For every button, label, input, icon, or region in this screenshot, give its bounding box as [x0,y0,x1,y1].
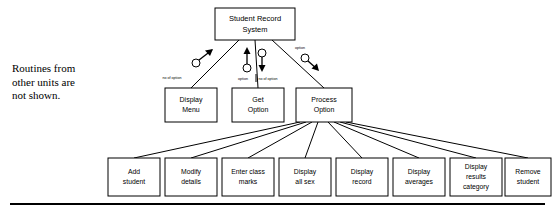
node-label-display-results-category-line1: Display [465,163,488,171]
node-label-display-results-category-line3: category [463,183,490,191]
flow-circle-option-right [301,54,309,62]
connector-process-to-display-all-sex [305,122,318,158]
node-label-display-averages-line1: Display [408,168,431,176]
node-label-display-results-category-line2: results [466,173,487,180]
node-label-add-student-line2: student [123,178,145,185]
connector-process-to-display-results-category [340,122,476,158]
node-enter-class-marks[interactable]: Enter class marks [222,158,274,196]
node-label-remove-student-line1: Remove [515,168,541,175]
node-label-get-option-line1: Get [252,96,263,103]
flow-arrowhead-no-of-option-center [259,65,266,72]
node-display-menu[interactable]: Display Menu [165,88,217,122]
node-student-record-system[interactable]: Student Record System [215,8,295,40]
node-label-process-option-line1: Process [311,96,337,103]
node-label-display-all-sex-line1: Display [294,168,317,176]
node-modify-details[interactable]: Modify details [165,158,217,196]
flow-label-no-of-option-center: no of option [259,77,278,81]
connector-process-to-display-record [328,122,362,158]
node-label-display-menu-line1: Display [180,96,203,104]
structure-chart-diagram: Student Record System [0,0,552,220]
node-label-display-record-line1: Display [351,168,374,176]
flow-circle-no-of-option-left [192,59,200,67]
node-label-process-option-line2: Option [314,106,335,114]
node-label-remove-student-line2: student [517,178,539,185]
flow-arrowhead-option-center [244,47,251,54]
node-label-add-student-line1: Add [128,168,140,175]
node-label-display-averages-line2: averages [405,178,434,186]
node-label-display-all-sex-line2: all sex [295,178,315,185]
node-label-student-record-system-line1: Student Record [229,14,281,23]
node-label-modify-details-line1: Modify [181,168,202,176]
structure-chart-page: Routines from other units are not shown.… [0,0,552,220]
flow-label-group: no of option option no of option option [163,46,305,82]
node-label-enter-class-marks-line1: Enter class [231,168,265,175]
node-display-all-sex[interactable]: Display all sex [279,158,331,196]
node-display-record[interactable]: Display record [336,158,388,196]
node-add-student[interactable]: Add student [108,158,160,196]
flow-label-no-of-option-left: no of option [163,76,182,80]
node-label-modify-details-line2: details [181,178,201,185]
connector-process-to-add-student [134,122,300,158]
flow-label-option-right: option [295,46,305,50]
node-label-display-record-line2: record [352,178,371,185]
node-display-averages[interactable]: Display averages [393,158,445,196]
connector-process-to-enter-class-marks [248,122,312,158]
flow-symbol-option-center [243,47,251,72]
node-label-display-menu-line2: Menu [182,106,200,113]
node-label-enter-class-marks-line2: marks [239,178,258,185]
node-display-results-category[interactable]: Display results category [450,158,502,196]
node-process-option[interactable]: Process Option [296,88,352,122]
flow-symbol-option-right [301,54,319,71]
node-label-student-record-system-line2: System [242,25,267,34]
flow-symbol-no-of-option-center [258,49,266,72]
node-label-get-option-line2: Option [248,106,269,114]
node-remove-student[interactable]: Remove student [505,158,551,196]
connector-group-process-to-level3 [134,122,528,158]
flow-symbol-no-of-option-left [192,49,213,67]
connector-process-to-modify-details [191,122,306,158]
flow-label-option-center: option [238,77,248,81]
flow-circle-option-center [243,64,251,72]
flow-circle-no-of-option-center [258,49,266,57]
node-get-option[interactable]: Get Option [232,88,284,122]
connector-process-to-remove-student [346,122,528,158]
